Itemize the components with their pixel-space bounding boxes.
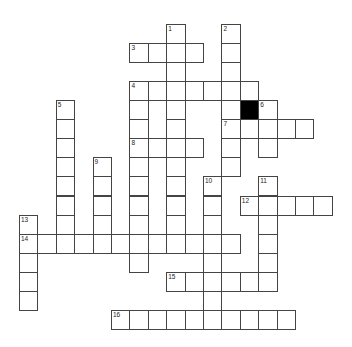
crossword-cell[interactable] [203, 272, 222, 292]
crossword-cell[interactable] [93, 234, 112, 254]
crossword-cell[interactable] [221, 234, 240, 254]
crossword-cell[interactable] [56, 176, 75, 196]
crossword-cell[interactable] [56, 119, 75, 139]
crossword-cell[interactable]: 3 [129, 43, 148, 63]
crossword-cell[interactable] [148, 138, 167, 158]
crossword-cell[interactable] [258, 253, 277, 273]
crossword-cell[interactable] [185, 81, 204, 101]
crossword-cell[interactable] [185, 310, 204, 330]
crossword-cell[interactable] [166, 157, 185, 177]
crossword-cell[interactable] [148, 81, 167, 101]
crossword-cell[interactable] [203, 310, 222, 330]
crossword-cell[interactable] [258, 234, 277, 254]
crossword-cell[interactable]: 15 [166, 272, 185, 292]
crossword-cell[interactable]: 11 [258, 176, 277, 196]
crossword-cell[interactable] [166, 196, 185, 216]
crossword-cell[interactable] [185, 43, 204, 63]
crossword-cell[interactable] [129, 100, 148, 120]
crossword-cell[interactable] [166, 234, 185, 254]
crossword-cell[interactable] [221, 81, 240, 101]
crossword-cell[interactable] [203, 253, 222, 273]
crossword-cell[interactable] [240, 119, 259, 139]
crossword-cell[interactable]: 14 [19, 234, 38, 254]
crossword-cell[interactable]: 5 [56, 100, 75, 120]
crossword-cell[interactable] [19, 291, 38, 311]
crossword-cell[interactable] [19, 253, 38, 273]
crossword-cell[interactable] [203, 234, 222, 254]
crossword-cell[interactable] [221, 138, 240, 158]
crossword-cell[interactable] [240, 272, 259, 292]
crossword-cell[interactable] [129, 119, 148, 139]
crossword-cell[interactable] [221, 157, 240, 177]
crossword-cell[interactable]: 12 [240, 196, 259, 216]
crossword-cell[interactable] [166, 138, 185, 158]
crossword-cell[interactable] [258, 310, 277, 330]
crossword-cell[interactable] [129, 215, 148, 235]
crossword-cell[interactable] [166, 43, 185, 63]
crossword-cell[interactable]: 16 [111, 310, 130, 330]
crossword-cell[interactable] [221, 62, 240, 82]
crossword-cell[interactable] [56, 138, 75, 158]
crossword-cell[interactable] [93, 196, 112, 216]
crossword-cell[interactable] [129, 196, 148, 216]
crossword-cell[interactable] [166, 81, 185, 101]
crossword-cell[interactable] [148, 43, 167, 63]
crossword-cell[interactable] [129, 253, 148, 273]
crossword-cell[interactable] [203, 291, 222, 311]
crossword-cell[interactable] [258, 119, 277, 139]
crossword-cell[interactable] [93, 176, 112, 196]
crossword-cell[interactable] [277, 196, 296, 216]
crossword-cell[interactable] [258, 215, 277, 235]
crossword-cell[interactable] [295, 196, 314, 216]
crossword-cell[interactable] [166, 176, 185, 196]
crossword-cell[interactable] [74, 234, 93, 254]
crossword-cell[interactable] [129, 234, 148, 254]
crossword-cell[interactable] [185, 272, 204, 292]
crossword-cell[interactable] [313, 196, 332, 216]
crossword-cell[interactable] [221, 43, 240, 63]
crossword-cell[interactable]: 8 [129, 138, 148, 158]
crossword-cell[interactable] [185, 138, 204, 158]
crossword-cell[interactable] [148, 310, 167, 330]
crossword-cell[interactable] [258, 138, 277, 158]
crossword-cell[interactable] [129, 176, 148, 196]
crossword-cell[interactable] [93, 215, 112, 235]
crossword-cell[interactable] [166, 310, 185, 330]
crossword-cell[interactable]: 4 [129, 81, 148, 101]
crossword-cell[interactable] [129, 157, 148, 177]
crossword-cell[interactable] [56, 215, 75, 235]
crossword-cell[interactable] [56, 234, 75, 254]
crossword-cell[interactable] [221, 100, 240, 120]
crossword-cell[interactable] [129, 310, 148, 330]
crossword-cell[interactable] [277, 310, 296, 330]
crossword-cell[interactable] [148, 234, 167, 254]
crossword-cell[interactable] [240, 310, 259, 330]
crossword-cell[interactable] [111, 234, 130, 254]
crossword-cell[interactable] [203, 215, 222, 235]
crossword-cell[interactable] [240, 81, 259, 101]
crossword-cell[interactable]: 10 [203, 176, 222, 196]
crossword-cell[interactable] [166, 100, 185, 120]
crossword-cell[interactable] [295, 119, 314, 139]
crossword-cell[interactable] [56, 157, 75, 177]
crossword-cell[interactable]: 13 [19, 215, 38, 235]
crossword-cell[interactable] [203, 81, 222, 101]
crossword-cell[interactable] [221, 272, 240, 292]
crossword-cell[interactable]: 2 [221, 24, 240, 44]
crossword-cell[interactable] [37, 234, 56, 254]
crossword-cell[interactable] [56, 196, 75, 216]
crossword-cell[interactable] [166, 119, 185, 139]
crossword-cell[interactable] [185, 234, 204, 254]
crossword-cell[interactable]: 1 [166, 24, 185, 44]
crossword-cell[interactable] [221, 310, 240, 330]
crossword-cell[interactable] [258, 272, 277, 292]
crossword-cell[interactable]: 6 [258, 100, 277, 120]
crossword-cell[interactable]: 7 [221, 119, 240, 139]
crossword-cell[interactable] [277, 119, 296, 139]
crossword-cell[interactable]: 9 [93, 157, 112, 177]
crossword-cell[interactable] [166, 215, 185, 235]
crossword-cell[interactable] [166, 62, 185, 82]
crossword-cell[interactable] [203, 196, 222, 216]
crossword-cell[interactable] [258, 196, 277, 216]
crossword-cell[interactable] [19, 272, 38, 292]
